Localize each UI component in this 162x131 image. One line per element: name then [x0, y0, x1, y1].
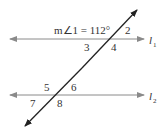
angle-5-label: 5: [44, 81, 50, 93]
line-l1-subscript: 1: [153, 41, 157, 49]
line-l2-subscript: 2: [153, 97, 157, 105]
angle-6-label: 6: [71, 81, 77, 93]
parallel-lines-diagram: m∠1 = 112° 2 3 4 5 6 7 8 l 1 l 2: [0, 0, 162, 131]
given-angle-label: m∠1 = 112°: [54, 24, 110, 36]
line-l2-name: l: [149, 90, 152, 102]
angle-2-label: 2: [125, 24, 131, 36]
angle-3-label: 3: [84, 41, 90, 53]
angle-8-label: 8: [57, 97, 63, 109]
angle-4-label: 4: [111, 41, 117, 53]
line-l1-name: l: [149, 34, 152, 46]
angle-7-label: 7: [30, 97, 36, 109]
